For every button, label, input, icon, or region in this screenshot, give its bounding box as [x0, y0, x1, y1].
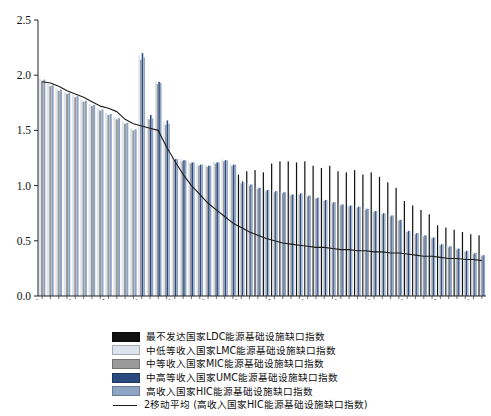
bar-hic-1976 [177, 159, 179, 296]
bar-umc-1990 [292, 194, 293, 296]
bar-umc-1974 [158, 82, 160, 296]
bar-umc-2003 [400, 220, 401, 296]
bar-hic-2009 [451, 246, 452, 296]
bar-lmc-1992 [306, 194, 307, 296]
bar-mic-1966 [91, 106, 93, 296]
bar-umc-2006 [424, 235, 425, 296]
bar-umc-2007 [433, 237, 434, 296]
bar-ldc-2000 [371, 172, 372, 296]
bar-hic-2001 [384, 213, 385, 296]
bar-umc-2009 [449, 246, 450, 296]
bar-umc-1989 [283, 192, 284, 296]
bar-lmc-1970 [122, 122, 124, 296]
ytick-label-1.5: 1.5 [17, 124, 32, 136]
bar-hic-1999 [368, 209, 369, 296]
bar-umc-1988 [275, 191, 276, 296]
bar-lmc-1966 [89, 104, 91, 296]
bar-ldc-1997 [346, 172, 347, 296]
bar-lmc-1963 [64, 92, 66, 296]
chart-legend: 最不发达国家LDC能源基础设施缺口指数中低等收入国家LMC能源基础设施缺口指数中… [112, 330, 452, 412]
bar-mic-1965 [83, 102, 85, 296]
bar-lmc-1964 [72, 95, 74, 296]
bar-hic-1983 [235, 165, 237, 296]
bar-ldc-2007 [429, 214, 430, 296]
legend-item-2: 中等收入国家MIC能源基础设施缺口指数 [112, 357, 452, 371]
bar-ldc-1985 [246, 171, 247, 296]
bar-ldc-2012 [470, 234, 471, 296]
bar-ldc-2010 [454, 230, 455, 296]
xtick-label-2012: 2012 [453, 297, 475, 300]
bar-umc-2001 [383, 213, 384, 296]
bar-ldc-1999 [362, 175, 363, 296]
xtick-label-2000: 2000 [353, 297, 375, 300]
bar-hic-1984 [243, 182, 244, 296]
bar-umc-2013 [483, 255, 484, 296]
bar-lmc-1983 [230, 164, 232, 296]
bar-mic-1967 [99, 111, 101, 296]
bar-lmc-1976 [171, 158, 173, 296]
legend-item-5: 2移动平均 (高收入国家HIC能源基础设施缺口指数) [112, 398, 452, 412]
bar-umc-1986 [259, 188, 260, 296]
bar-hic-1965 [85, 101, 87, 296]
xtick-label-1980: 1980 [188, 297, 210, 300]
bar-mic-1976 [173, 160, 175, 296]
xtick-label-2008: 2008 [420, 297, 442, 300]
bar-mic-1973 [148, 119, 150, 296]
bar-lmc-1971 [130, 128, 132, 296]
bar-lmc-1974 [155, 81, 157, 296]
bar-hic-1982 [226, 160, 228, 296]
bar-lmc-1960 [39, 79, 41, 296]
bar-mic-1994 [324, 201, 325, 296]
bar-lmc-1977 [180, 159, 182, 296]
bar-mic-2011 [465, 252, 466, 296]
bar-hic-1977 [185, 160, 187, 296]
bar-mic-2005 [415, 234, 416, 296]
legend-color-swatch-icon [112, 359, 140, 369]
bar-mic-1969 [116, 119, 118, 296]
bar-mic-1980 [206, 167, 208, 296]
bar-lmc-1993 [314, 197, 315, 296]
bar-umc-1997 [350, 205, 351, 296]
legend-item-1: 中低等收入国家LMC能源基础设施缺口指数 [112, 344, 452, 358]
bar-mic-2001 [382, 214, 383, 296]
bar-lmc-2009 [447, 245, 448, 296]
bar-mic-1974 [157, 84, 159, 296]
bar-lmc-2006 [422, 234, 423, 296]
bar-mic-1971 [132, 130, 134, 296]
bar-hic-1961 [52, 85, 54, 296]
legend-item-label: 高收入国家HIC能源基础设施缺口指数 [146, 386, 313, 397]
bar-mic-2008 [440, 245, 441, 296]
bar-hic-1971 [135, 129, 137, 296]
bar-mic-1990 [290, 196, 291, 296]
bar-mic-1963 [66, 94, 68, 296]
bar-ldc-1984 [238, 175, 239, 296]
bar-hic-1969 [118, 118, 120, 296]
bar-umc-1984 [242, 181, 243, 296]
bar-mic-1984 [241, 183, 242, 296]
ytick-label-1.0: 1.0 [17, 180, 32, 192]
bar-hic-1989 [285, 192, 286, 296]
xtick-label-1996: 1996 [320, 297, 342, 300]
bar-hic-1967 [101, 109, 103, 296]
bar-hic-1964 [76, 96, 78, 296]
bar-umc-1999 [366, 209, 367, 296]
bar-mic-1964 [74, 97, 76, 296]
bar-ldc-2003 [395, 188, 396, 296]
bar-ldc-1988 [271, 164, 272, 296]
bar-ldc-2005 [412, 205, 413, 296]
bar-umc-2011 [466, 251, 467, 296]
bar-lmc-1979 [196, 164, 198, 296]
bar-umc-1987 [267, 190, 268, 296]
bar-lmc-1999 [364, 208, 365, 296]
ytick-label-0.5: 0.5 [17, 235, 32, 247]
bar-mic-1970 [124, 124, 126, 296]
legend-item-label: 最不发达国家LDC能源基础设施缺口指数 [146, 331, 325, 342]
bar-lmc-2011 [463, 250, 464, 296]
bar-hic-2002 [393, 215, 394, 296]
bar-mic-1962 [58, 91, 60, 296]
bar-umc-2004 [408, 231, 409, 296]
ytick-label-2.5: 2.5 [17, 14, 32, 26]
bar-mic-1977 [181, 161, 183, 296]
bar-mic-2000 [373, 212, 374, 296]
bar-hic-1978 [193, 162, 195, 296]
